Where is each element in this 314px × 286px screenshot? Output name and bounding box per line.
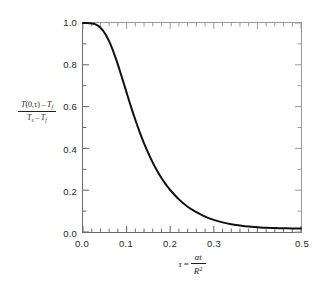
x-axis-radius-exponent: 2 (199, 265, 202, 272)
x-tick-label: 0.1 (119, 238, 133, 249)
x-tick-label: 0.5 (295, 238, 309, 249)
x-tick-label: 0.2 (163, 238, 177, 249)
x-tick-label: 0.0 (75, 238, 89, 249)
x-axis-time-t: t (199, 252, 202, 262)
y-axis-num-minus: – (40, 100, 47, 109)
y-tick-label: 0.8 (36, 59, 77, 70)
y-axis-num-args: (0,τ) (25, 100, 40, 109)
y-axis-label: T(0,τ)–Tf Ts–Tf (4, 100, 70, 123)
y-tick-label: 0.4 (36, 143, 77, 154)
y-axis-den-minus: – (34, 113, 41, 122)
x-tick-label: 0.3 (207, 238, 221, 249)
y-axis-fraction: T(0,τ)–Tf Ts–Tf (18, 100, 56, 123)
curve-path (83, 23, 301, 228)
temperature-history-curve (83, 23, 301, 232)
y-tick-label: 0.2 (36, 185, 77, 196)
x-axis-tau-symbol: τ (178, 259, 181, 269)
x-axis-equals: = (184, 259, 189, 269)
chart-figure: 0.00.10.20.30.5 0.00.20.40.60.81.0 τ = α… (0, 0, 314, 286)
plot-area (82, 22, 302, 233)
y-tick-label: 1.0 (36, 17, 77, 28)
y-tick-label: 0.0 (36, 228, 77, 239)
x-axis-fraction: αt R2 (191, 252, 206, 277)
x-axis-label: τ = αt R2 (82, 252, 302, 277)
y-axis-num-Tf-subscript: f (51, 104, 53, 110)
y-axis-den-Tf-subscript: f (45, 117, 47, 123)
